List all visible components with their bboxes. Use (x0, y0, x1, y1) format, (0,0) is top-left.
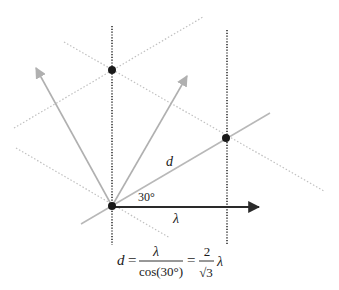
wave-diagram: d 30° λ d = λ cos(30°) = 2 √3 λ (0, 0, 339, 290)
wavefronts-rising (14, 17, 203, 128)
d-label: d (166, 154, 174, 169)
right-dot (222, 134, 230, 142)
formula-frac1-den: cos(30°) (139, 264, 183, 279)
formula-tail: λ (216, 254, 223, 269)
wavefront-rising-upper (14, 17, 203, 128)
formula-eq1: = (128, 252, 136, 268)
wavefronts-falling (16, 42, 324, 238)
origin-dot (108, 202, 116, 210)
formula-frac2-den: √3 (199, 265, 213, 280)
gray-arrow-left (36, 68, 112, 206)
vertical-grid-lines (112, 26, 227, 245)
formula-lhs: d (117, 252, 125, 268)
angle-label: 30° (138, 190, 155, 204)
formula-eq2: = (187, 252, 195, 268)
formula-frac2-num: 2 (204, 244, 211, 259)
wavefront-falling-upper (64, 42, 324, 191)
lambda-label: λ (172, 211, 179, 226)
formula-frac1-num: λ (152, 244, 159, 259)
gray-arrow-right (112, 76, 187, 206)
top-dot (108, 66, 116, 74)
formula: d = λ cos(30°) = 2 √3 λ (117, 244, 223, 280)
